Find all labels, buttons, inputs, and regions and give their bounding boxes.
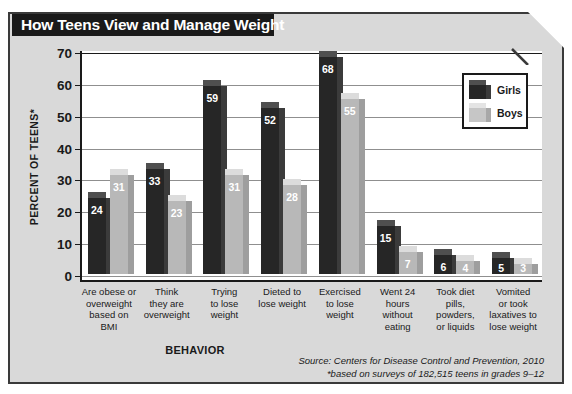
page-title: How Teens View and Manage Weight	[21, 16, 284, 34]
bar-front-face	[225, 175, 243, 274]
bar-side-face	[301, 185, 307, 274]
y-tick-label-30: 30	[57, 173, 72, 188]
x-category-label-6: Took dietpills,powders,or liquids	[427, 286, 485, 332]
bar-top-face	[377, 220, 395, 226]
legend-item-girls: Girls	[469, 80, 521, 99]
x-category-label-2: Tryingto loseweight	[196, 286, 254, 321]
bar-side-face	[532, 264, 538, 274]
bar-front-face	[456, 261, 474, 274]
x-category-label-4: Exercisedto loseweight	[311, 286, 369, 321]
y-tick-50	[75, 117, 82, 118]
y-tick-70	[75, 53, 82, 54]
y-tick-label-10: 10	[57, 237, 72, 252]
gridline-0	[82, 276, 542, 277]
bar-front-face	[261, 108, 279, 274]
y-axis-title-label: PERCENT OF TEENS*	[28, 108, 40, 224]
bar-top-face	[110, 169, 128, 175]
gridline-70	[82, 53, 542, 54]
y-tick-60	[75, 85, 82, 86]
bar-front-face	[88, 198, 106, 274]
bar-top-face	[203, 80, 221, 86]
bar-boys-5[interactable]	[399, 252, 417, 274]
bar-front-face	[110, 175, 128, 274]
bar-front-face	[168, 201, 186, 274]
bar-girls-2[interactable]	[203, 86, 221, 274]
legend-label-girls: Girls	[497, 84, 521, 96]
bar-side-face	[186, 201, 192, 274]
bar-front-face	[514, 264, 532, 274]
bar-top-face	[261, 102, 279, 108]
bar-side-face	[417, 252, 423, 274]
bar-top-face	[88, 192, 106, 198]
y-tick-40	[75, 149, 82, 150]
bar-top-face	[341, 93, 359, 99]
bar-girls-7[interactable]	[492, 258, 510, 274]
y-tick-label-0: 0	[64, 269, 72, 284]
bar-girls-1[interactable]	[146, 169, 164, 274]
bar-boys-2[interactable]	[225, 175, 243, 274]
y-tick-label-60: 60	[57, 77, 72, 92]
bar-front-face	[283, 185, 301, 274]
y-tick-label-20: 20	[57, 205, 72, 220]
bar-front-face	[399, 252, 417, 274]
bar-boys-0[interactable]	[110, 175, 128, 274]
plot-area: 010203040506070 243133235931522868551576…	[80, 51, 542, 282]
bar-girls-6[interactable]	[434, 255, 452, 274]
bar-top-face	[434, 249, 452, 255]
bar-side-face	[474, 261, 480, 274]
y-tick-label-40: 40	[57, 141, 72, 156]
legend-swatch-girls-icon	[469, 80, 491, 99]
bar-top-face	[399, 246, 417, 252]
x-category-label-3: Dieted tolose weight	[253, 286, 311, 309]
x-category-label-7: Vomitedor tooklaxatives tolose weight	[484, 286, 542, 332]
chart-figure-frame: How Teens View and Manage Weight PERCENT…	[8, 12, 564, 384]
bar-boys-7[interactable]	[514, 264, 532, 274]
bar-side-face	[243, 175, 249, 274]
bar-top-face	[168, 195, 186, 201]
chart-legend: Girls Boys	[462, 73, 528, 129]
bar-front-face	[341, 99, 359, 274]
y-tick-10	[75, 244, 82, 245]
bar-front-face	[319, 57, 337, 274]
bar-top-face	[225, 169, 243, 175]
bar-side-face	[128, 175, 134, 274]
chart-title-banner: How Teens View and Manage Weight	[12, 14, 274, 36]
bar-top-face	[146, 163, 164, 169]
bar-front-face	[203, 86, 221, 274]
bar-top-face	[283, 179, 301, 185]
y-tick-20	[75, 212, 82, 213]
source-note: Source: Centers for Disease Control and …	[298, 354, 544, 367]
chart-footnotes: Source: Centers for Disease Control and …	[298, 354, 544, 380]
y-tick-30	[75, 180, 82, 181]
bar-boys-4[interactable]	[341, 99, 359, 274]
bar-front-face	[146, 169, 164, 274]
y-tick-label-50: 50	[57, 109, 72, 124]
bar-front-face	[492, 258, 510, 274]
bar-top-face	[319, 51, 337, 57]
legend-swatch-boys-icon	[469, 103, 491, 122]
gridline-40	[82, 149, 542, 150]
legend-label-boys: Boys	[497, 107, 523, 119]
bar-girls-4[interactable]	[319, 57, 337, 274]
bar-boys-3[interactable]	[283, 185, 301, 274]
y-tick-0	[75, 276, 82, 277]
x-axis-category-labels: Are obese oroverweightbased onBMIThinkth…	[80, 286, 542, 344]
x-category-label-1: Thinkthey areoverweight	[138, 286, 196, 321]
y-axis-title: PERCENT OF TEENS*	[26, 51, 42, 282]
bar-top-face	[456, 255, 474, 261]
bar-boys-1[interactable]	[168, 201, 186, 274]
legend-item-boys: Boys	[469, 103, 523, 122]
bar-front-face	[377, 226, 395, 274]
bar-girls-5[interactable]	[377, 226, 395, 274]
y-tick-label-70: 70	[57, 46, 72, 61]
bar-girls-3[interactable]	[261, 108, 279, 274]
bar-top-face	[492, 252, 510, 258]
bar-girls-0[interactable]	[88, 198, 106, 274]
bar-top-face	[514, 258, 532, 264]
x-category-label-0: Are obese oroverweightbased onBMI	[80, 286, 138, 332]
x-category-label-5: Went 24hourswithouteating	[369, 286, 427, 332]
bar-side-face	[359, 99, 365, 274]
bar-boys-6[interactable]	[456, 261, 474, 274]
methodology-note: *based on surveys of 182,515 teens in gr…	[298, 367, 544, 380]
bar-front-face	[434, 255, 452, 274]
